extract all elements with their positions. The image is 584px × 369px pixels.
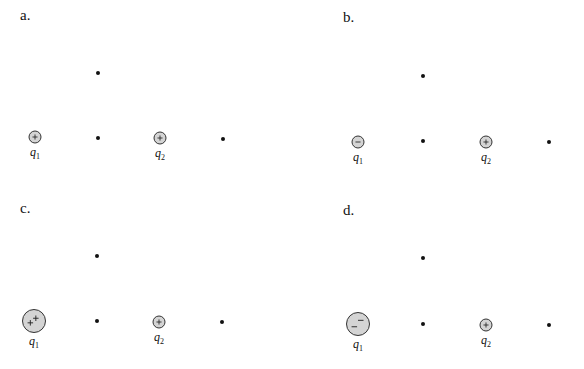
panel-label: c.	[20, 200, 30, 217]
field-point-top	[421, 256, 425, 260]
plus-icon	[481, 320, 492, 331]
panel-label: d.	[343, 202, 354, 219]
q2-subscript: 2	[487, 340, 491, 349]
charge-q1-negative-large	[346, 312, 370, 336]
field-point-right	[547, 323, 551, 327]
q1-label: q1	[353, 150, 363, 166]
panel-d: d. q1 q2	[0, 0, 292, 184]
field-point-middle	[421, 322, 425, 326]
field-point-middle	[421, 139, 425, 143]
q2-label: q2	[481, 150, 491, 166]
q1-subscript: 1	[359, 344, 363, 353]
panel-label: b.	[343, 9, 354, 26]
q2-subscript: 2	[487, 157, 491, 166]
field-point-middle	[95, 319, 99, 323]
minus-icon	[353, 137, 364, 148]
q1-label: q1	[29, 334, 39, 350]
field-point-top	[421, 74, 425, 78]
q2-label: q2	[481, 333, 491, 349]
q1-subscript: 1	[359, 157, 363, 166]
q1-label: q1	[353, 337, 363, 353]
double-plus-icon	[23, 310, 45, 332]
field-point-top	[95, 254, 99, 258]
charge-q1-negative	[352, 136, 365, 149]
q1-subscript: 1	[35, 341, 39, 350]
charge-q2-positive	[480, 319, 493, 332]
charge-q2-positive	[480, 136, 493, 149]
plus-icon	[154, 317, 165, 328]
field-point-right	[547, 140, 551, 144]
double-minus-icon	[347, 313, 369, 335]
charge-q2-positive	[153, 316, 166, 329]
q2-label: q2	[154, 330, 164, 346]
q2-subscript: 2	[160, 337, 164, 346]
plus-icon	[481, 137, 492, 148]
charge-q1-positive-large	[22, 309, 46, 333]
field-point-right	[220, 320, 224, 324]
